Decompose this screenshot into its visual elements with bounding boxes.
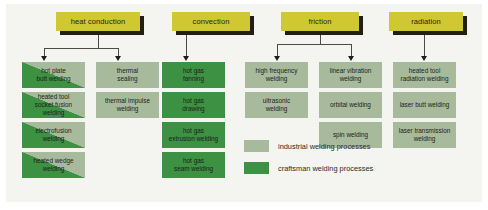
connector-heat-bus [44,48,119,49]
process-label: electrofusion welding [33,127,73,143]
process-label: heated tool radiation welding [399,67,451,83]
process-label: heated tool socket fusion welding [22,93,85,118]
process-box[interactable]: heated tool radiation welding [393,62,456,88]
legend-item-industrial: industrial welding processes [244,140,370,152]
process-label: hot gas fanning [181,67,206,83]
process-label: laser butt welding [398,101,452,109]
process-box[interactable]: hot gas drawing [162,92,225,118]
connector-convection-stem [186,31,187,56]
legend-label: craftsman welding processes [278,164,373,173]
connector-heat-stem [98,31,99,48]
arrow-icon [183,56,189,61]
process-box[interactable]: hot gas seam welding [162,152,225,178]
header-label: radiation [411,17,441,26]
process-box[interactable]: thermal sealing [96,62,159,88]
arrow-icon [274,56,280,61]
process-box[interactable]: laser butt welding [393,92,456,118]
process-label: orbital welding [328,101,373,109]
process-label: hot gas drawing [180,97,206,113]
legend-swatch-craftsman [244,162,269,174]
legend-item-craftsman: craftsman welding processes [244,162,373,174]
process-box[interactable]: heated wedge welding [22,152,85,178]
arrow-icon [421,56,427,61]
process-label: high frequency welding [254,67,300,83]
connector-friction-drop-2 [351,44,352,56]
process-label: ultrasonic welding [261,97,292,113]
process-box[interactable]: linear vibration welding [319,62,382,88]
process-box[interactable]: laser transmission welding [393,122,456,148]
process-label: spin welding [331,131,370,139]
header-label: heat conduction [71,17,125,26]
header-radiation[interactable]: radiation [389,12,463,31]
arrow-icon [115,56,121,61]
process-box[interactable]: hot gas fanning [162,62,225,88]
legend-swatch-industrial [244,140,269,152]
header-convection[interactable]: convection [172,12,250,31]
process-box[interactable]: ultrasonic welding [245,92,308,118]
connector-heat-drop-2 [118,48,119,56]
connector-friction-stem [320,31,321,44]
process-box[interactable]: hot gas extrusion welding [162,122,225,148]
connector-heat-drop-1 [44,48,45,56]
process-label: linear vibration welding [328,67,374,83]
arrow-icon [41,56,47,61]
process-label: hot gas seam welding [172,157,215,173]
process-box[interactable]: electrofusion welding [22,122,85,148]
process-label: heated wedge welding [31,157,75,173]
process-label: hot plate butt welding [34,67,72,83]
process-box[interactable]: thermal impulse welding [96,92,159,118]
process-box[interactable]: hot plate butt welding [22,62,85,88]
welding-process-diagram: heat conduction convection friction radi… [0,0,488,210]
header-friction[interactable]: friction [281,12,359,31]
connector-friction-bus [277,44,352,45]
arrow-icon [348,56,354,61]
process-label: laser transmission welding [397,127,453,143]
header-label: convection [193,17,230,26]
connector-friction-drop-1 [277,44,278,56]
process-box[interactable]: high frequency welding [245,62,308,88]
process-box[interactable]: heated tool socket fusion welding [22,92,85,118]
process-label: hot gas extrusion welding [167,127,220,143]
legend-label: industrial welding processes [278,142,370,151]
header-label: friction [309,17,332,26]
process-box[interactable]: orbital welding [319,92,382,118]
process-label: thermal sealing [115,67,140,83]
connector-radiation-stem [424,31,425,56]
header-heat-conduction[interactable]: heat conduction [56,12,140,31]
process-label: thermal impulse welding [103,97,152,113]
